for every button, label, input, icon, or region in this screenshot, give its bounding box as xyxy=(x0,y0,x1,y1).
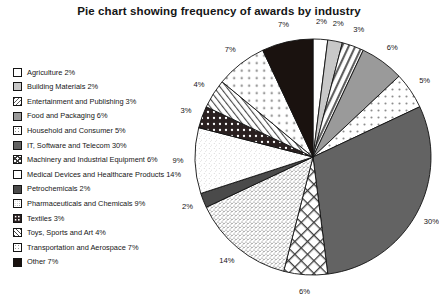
legend-item-label: Pharmaceuticals and Chemicals 9% xyxy=(27,200,145,207)
legend-swatch-icon xyxy=(13,82,22,91)
pie-svg xyxy=(193,37,433,277)
pie-slice-value-label: 9% xyxy=(173,157,184,165)
legend-item-label: Petrochemicals 2% xyxy=(27,185,90,192)
pie-slice-value-label: 6% xyxy=(387,44,398,52)
pie-slice-value-label: 14% xyxy=(219,257,234,265)
pie-slice-value-label: 5% xyxy=(419,77,430,85)
legend-item-label: Machinery and Industrial Equipment 6% xyxy=(27,156,158,163)
legend-swatch-icon xyxy=(13,97,22,106)
legend-item-label: IT, Software and Telecom 30% xyxy=(27,142,127,149)
legend-item-label: Medical Devices and Healthcare Products … xyxy=(27,171,181,178)
pie-slice-value-label: 6% xyxy=(299,288,310,295)
legend-swatch-icon xyxy=(13,112,22,121)
chart-legend: Agriculture 2%Building Materials 2%Enter… xyxy=(13,65,198,269)
legend-item-label: Household and Consumer 5% xyxy=(27,127,126,134)
pie-slice-value-label: 2% xyxy=(182,203,193,211)
legend-swatch-icon xyxy=(13,170,22,179)
legend-item[interactable]: Food and Packaging 6% xyxy=(13,109,198,124)
legend-swatch-icon xyxy=(13,258,22,267)
pie-slice-value-label: 3% xyxy=(353,26,364,34)
pie-slice-value-label: 7% xyxy=(278,21,289,29)
legend-swatch-icon xyxy=(13,228,22,237)
legend-swatch-icon xyxy=(13,185,22,194)
pie-slice-value-label: 30% xyxy=(424,218,439,226)
legend-item[interactable]: Textiles 3% xyxy=(13,211,198,226)
legend-item[interactable]: Agriculture 2% xyxy=(13,65,198,80)
legend-item[interactable]: IT, Software and Telecom 30% xyxy=(13,138,198,153)
legend-item-label: Other 7% xyxy=(27,258,58,265)
pie-slice-value-label: 2% xyxy=(316,18,327,26)
pie-plot-area: 2%2%3%6%5%30%6%14%2%9%3%4%7%7% xyxy=(193,37,433,277)
legend-item[interactable]: Building Materials 2% xyxy=(13,80,198,95)
legend-item[interactable]: Household and Consumer 5% xyxy=(13,123,198,138)
legend-item-label: Agriculture 2% xyxy=(27,69,75,76)
legend-item-label: Toys, Sports and Art 4% xyxy=(27,229,106,236)
legend-item-label: Building Materials 2% xyxy=(27,83,98,90)
legend-swatch-icon xyxy=(13,126,22,135)
pie-slice-value-label: 4% xyxy=(194,81,205,89)
legend-swatch-icon xyxy=(13,141,22,150)
legend-item-label: Food and Packaging 6% xyxy=(27,112,108,119)
legend-item[interactable]: Pharmaceuticals and Chemicals 9% xyxy=(13,196,198,211)
legend-swatch-icon xyxy=(13,214,22,223)
pie-slice-value-label: 3% xyxy=(180,107,191,115)
legend-item[interactable]: Machinery and Industrial Equipment 6% xyxy=(13,153,198,168)
pie-slice-value-label: 2% xyxy=(333,21,344,29)
legend-swatch-icon xyxy=(13,155,22,164)
legend-swatch-icon xyxy=(13,68,22,77)
legend-item-label: Transportation and Aerospace 7% xyxy=(27,244,138,251)
legend-item-label: Textiles 3% xyxy=(27,215,64,222)
legend-item[interactable]: Medical Devices and Healthcare Products … xyxy=(13,167,198,182)
pie-slice-value-label: 7% xyxy=(225,47,236,55)
legend-swatch-icon xyxy=(13,199,22,208)
legend-item[interactable]: Other 7% xyxy=(13,255,198,270)
page-title: Pie chart showing frequency of awards by… xyxy=(0,5,438,17)
legend-item-label: Entertainment and Publishing 3% xyxy=(27,98,136,105)
legend-item[interactable]: Transportation and Aerospace 7% xyxy=(13,240,198,255)
legend-item[interactable]: Toys, Sports and Art 4% xyxy=(13,226,198,241)
legend-item[interactable]: Entertainment and Publishing 3% xyxy=(13,94,198,109)
legend-item[interactable]: Petrochemicals 2% xyxy=(13,182,198,197)
legend-swatch-icon xyxy=(13,243,22,252)
